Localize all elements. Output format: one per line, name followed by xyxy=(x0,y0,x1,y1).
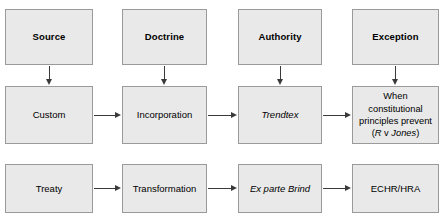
flowchart-diagram: Incorporation and transformation of inte… xyxy=(0,0,446,222)
node-label-exception: Exception xyxy=(369,31,421,42)
node-label-authority: Authority xyxy=(255,31,304,42)
exception-case-v: v xyxy=(382,128,392,138)
node-label-ex-parte-brind: Ex parte Brind xyxy=(247,183,313,194)
node-ex-parte-brind: Ex parte Brind xyxy=(238,164,322,213)
node-transformation: Transformation xyxy=(122,164,207,213)
node-echr-hra: ECHR/HRA xyxy=(352,164,439,213)
node-trendtex: Trendtex xyxy=(238,86,322,144)
exception-line-1: When constitutional xyxy=(368,91,422,113)
node-label-doctrine: Doctrine xyxy=(142,31,187,42)
node-label-constitutional-exception: When constitutionalprinciples prevent(R … xyxy=(353,90,438,139)
node-header-exception: Exception xyxy=(352,9,439,65)
node-label-source: Source xyxy=(30,31,69,42)
node-constitutional-exception: When constitutionalprinciples prevent(R … xyxy=(352,86,439,144)
node-label-echr-hra: ECHR/HRA xyxy=(368,183,424,194)
exception-line-2: principles prevent xyxy=(359,116,432,126)
node-custom: Custom xyxy=(5,86,93,144)
node-header-doctrine: Doctrine xyxy=(122,9,207,65)
node-treaty: Treaty xyxy=(5,164,93,213)
node-label-transformation: Transformation xyxy=(130,183,200,194)
node-label-custom: Custom xyxy=(30,109,69,120)
exception-case-party-a: R xyxy=(375,128,382,138)
exception-case-party-b: Jones xyxy=(391,128,416,138)
node-incorporation: Incorporation xyxy=(122,86,207,144)
diagram-title: Incorporation and transformation of inte… xyxy=(0,21,1,22)
node-label-trendtex: Trendtex xyxy=(259,109,302,120)
node-label-treaty: Treaty xyxy=(33,183,66,194)
node-header-authority: Authority xyxy=(238,9,322,65)
node-header-source: Source xyxy=(5,9,93,65)
exception-case-close: ) xyxy=(416,128,419,138)
node-label-incorporation: Incorporation xyxy=(134,109,195,120)
